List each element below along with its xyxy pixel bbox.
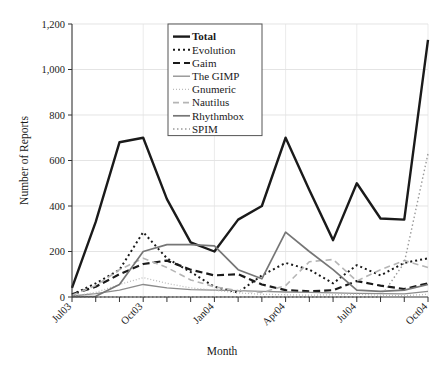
legend: TotalEvolutionGaimThe GIMPGnumericNautil… bbox=[168, 24, 262, 136]
line-chart-number-of-reports: 02004006008001,0001,200Jul03Oct03Jan04Ap… bbox=[0, 0, 441, 375]
series-line-rhythmbox bbox=[72, 232, 428, 296]
legend-label-gaim: Gaim bbox=[192, 57, 217, 69]
y-axis-tick-label: 1,000 bbox=[41, 64, 65, 75]
y-axis-tick-label: 400 bbox=[49, 201, 65, 212]
x-axis-tick-label: Apr04 bbox=[260, 300, 287, 327]
x-axis-tick-label: Jul04 bbox=[334, 300, 358, 324]
legend-label-nautilus: Nautilus bbox=[192, 96, 229, 108]
y-axis-tick-label: 800 bbox=[49, 110, 65, 121]
series-line-evolution bbox=[72, 232, 428, 295]
chart-canvas: 02004006008001,0001,200Jul03Oct03Jan04Ap… bbox=[0, 0, 441, 375]
y-axis-tick-label: 600 bbox=[49, 155, 65, 166]
x-axis-tick-label: Jan04 bbox=[191, 300, 217, 326]
x-axis-tick-label: Oct04 bbox=[403, 300, 429, 326]
legend-label-spim: SPIM bbox=[192, 123, 218, 135]
legend-label-rhythmbox: Rhythmbox bbox=[192, 110, 244, 122]
series-line-the-gimp bbox=[72, 284, 428, 295]
y-axis-tick-label: 200 bbox=[49, 246, 65, 257]
y-axis-title: Number of Reports bbox=[18, 116, 31, 205]
x-axis-tick-label: Oct03 bbox=[119, 301, 145, 327]
legend-label-the-gimp: The GIMP bbox=[192, 70, 239, 82]
legend-label-evolution: Evolution bbox=[192, 44, 236, 56]
legend-label-gnumeric: Gnumeric bbox=[192, 83, 236, 95]
x-axis-title: Month bbox=[207, 345, 238, 357]
legend-label-total: Total bbox=[192, 30, 216, 42]
x-axis-tick-label: Jul03 bbox=[50, 301, 74, 325]
y-axis-tick-label: 1,200 bbox=[41, 19, 65, 30]
